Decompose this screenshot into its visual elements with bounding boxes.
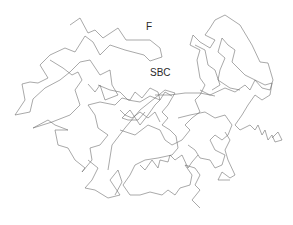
backbone-chain-segment bbox=[120, 15, 273, 145]
backbone-chain-segment bbox=[140, 155, 198, 170]
backbone-chain-segment bbox=[85, 160, 122, 198]
backbone-chain-segment bbox=[195, 45, 220, 90]
backbone-chain-segment bbox=[200, 80, 282, 142]
label-f: F bbox=[146, 22, 152, 32]
backbone-chain-segment bbox=[33, 60, 160, 172]
backbone-trace bbox=[0, 0, 293, 225]
backbone-chain-segment bbox=[120, 110, 160, 122]
backbone-chain-segment bbox=[108, 90, 200, 208]
backbone-chain-segment bbox=[15, 18, 162, 115]
label-sbc: SBC bbox=[150, 68, 171, 78]
backbone-chain-segment bbox=[178, 112, 232, 168]
